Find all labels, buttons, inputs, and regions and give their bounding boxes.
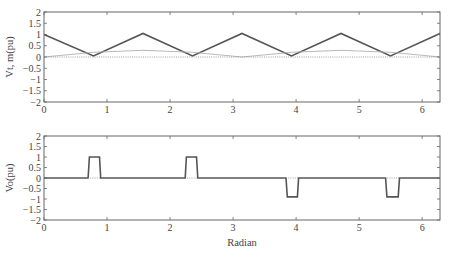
x-tick-label: 3 xyxy=(231,222,236,233)
y-tick-label: 1 xyxy=(36,152,41,163)
carrier-line xyxy=(44,33,440,56)
y-tick-label: −2 xyxy=(30,215,41,226)
x-tick-label: 3 xyxy=(231,104,236,115)
x-tick-label: 2 xyxy=(168,222,173,233)
y-tick-label: −0.5 xyxy=(23,63,41,74)
top-plot: 012345621.510.50−0.5−1−1.5−2 xyxy=(23,7,440,116)
x-tick-label: 0 xyxy=(42,222,47,233)
x-tick-label: 1 xyxy=(105,104,110,115)
y-tick-label: 0 xyxy=(36,173,41,184)
x-tick-label: 4 xyxy=(294,104,299,115)
x-tick-label: 6 xyxy=(420,104,425,115)
y-tick-label: 1.5 xyxy=(29,141,42,152)
x-tick-label: 1 xyxy=(105,222,110,233)
x-tick-label: 6 xyxy=(420,222,425,233)
y-tick-label: −1 xyxy=(30,194,41,205)
y-tick-label: 2 xyxy=(36,7,41,18)
bottom-plot: 012345621.510.50−0.5−1−1.5−2 xyxy=(23,131,440,234)
output-voltage-line xyxy=(44,157,440,197)
y-tick-label: −0.5 xyxy=(23,183,41,194)
x-tick-label: 5 xyxy=(357,222,362,233)
x-tick-label: 2 xyxy=(168,104,173,115)
y-tick-label: 1 xyxy=(36,29,41,40)
y-tick-label: 0 xyxy=(36,52,41,63)
bottom-ylabel: Vo(pu) xyxy=(4,163,16,192)
y-tick-label: −1.5 xyxy=(23,85,41,96)
figure: 012345621.510.50−0.5−1−1.5−2 012345621.5… xyxy=(0,0,450,256)
y-tick-label: 2 xyxy=(36,131,41,142)
y-tick-label: 1.5 xyxy=(29,18,42,29)
top-ylabel: Vt, m(pu) xyxy=(4,36,16,78)
y-tick-label: −1 xyxy=(30,74,41,85)
y-tick-label: −2 xyxy=(30,97,41,108)
y-tick-label: 0.5 xyxy=(29,162,42,173)
x-tick-label: 4 xyxy=(294,222,299,233)
y-tick-label: −1.5 xyxy=(23,204,41,215)
x-tick-label: 0 xyxy=(42,104,47,115)
bottom-xlabel: Radian xyxy=(227,237,257,248)
y-tick-label: 0.5 xyxy=(29,40,42,51)
x-tick-label: 5 xyxy=(357,104,362,115)
